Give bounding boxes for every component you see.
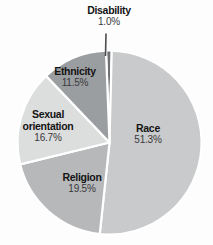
pie-chart-figure: Disability 1.0% Ethnicity 11.5% Sexual o…: [0, 0, 213, 245]
pie-chart: [0, 0, 213, 245]
disability-leader-line: [106, 34, 107, 57]
slice-race: [100, 51, 202, 235]
